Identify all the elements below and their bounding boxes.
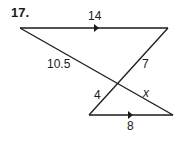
label-left-diagonal-upper: 10.5 — [47, 58, 70, 70]
label-right-diagonal-upper: 7 — [142, 58, 149, 70]
label-top-side: 14 — [88, 10, 101, 22]
label-right-diagonal-lower: x — [143, 87, 149, 99]
label-bottom-side: 8 — [127, 120, 134, 132]
parallel-arrow-icon — [94, 24, 99, 32]
parallel-arrow-icon — [128, 111, 133, 119]
label-left-diagonal-lower: 4 — [94, 89, 101, 101]
